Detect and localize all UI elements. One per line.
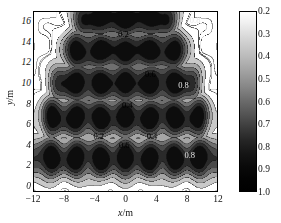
contour-inline-label: 0.6: [144, 69, 157, 78]
y-tick-label: 12: [22, 57, 32, 67]
contour-inline-label: 0.6: [118, 140, 131, 149]
x-tick-label: −8: [59, 194, 69, 204]
contour-inline-label: 0.2: [117, 29, 130, 38]
x-axis-tick-labels: −12−8−404812: [0, 194, 281, 208]
x-tick-label: 4: [154, 194, 159, 204]
y-tick-label: 14: [22, 37, 32, 47]
y-tick-label: 6: [26, 119, 31, 129]
colorbar-tick-label: 0.3: [258, 29, 270, 39]
x-tick-label: 12: [213, 194, 223, 204]
colorbar-tick-label: 0.7: [258, 119, 270, 129]
colorbar-tick-labels: 0.20.30.40.50.60.70.80.91.0: [258, 0, 281, 223]
contour-inline-label: 0.8: [189, 16, 202, 25]
colorbar-tick-label: 0.9: [258, 164, 270, 174]
contour-inline-label: 0.4: [121, 100, 134, 109]
contour-inline-label: 0.8: [183, 151, 196, 160]
colorbar-tick-label: 1.0: [258, 187, 270, 197]
figure-root: 0.80.20.60.80.40.20.40.60.8 161412108642…: [0, 0, 281, 223]
colorbar-gradient: [240, 12, 256, 191]
contour-inline-label: 0.2: [92, 132, 105, 141]
y-axis-title-var: y: [4, 101, 15, 105]
contour-plot-frame: 0.80.20.60.80.40.20.40.60.8: [33, 11, 218, 192]
y-tick-label: 0: [26, 181, 31, 191]
x-tick-label: 0: [123, 194, 128, 204]
x-tick-label: −12: [26, 194, 41, 204]
y-tick-label: 8: [26, 99, 31, 109]
y-tick-label: 2: [26, 160, 31, 170]
colorbar-tick-label: 0.5: [258, 74, 270, 84]
y-tick-label: 4: [26, 140, 31, 150]
y-tick-label: 10: [22, 78, 32, 88]
x-axis-title: x/m: [33, 207, 218, 218]
contour-inline-label: 0.8: [177, 81, 190, 90]
y-tick-label: 16: [22, 16, 32, 26]
x-tick-label: −4: [90, 194, 100, 204]
colorbar-tick-label: 0.6: [258, 97, 270, 107]
y-axis-title-unit: /m: [4, 90, 15, 101]
y-axis-tick-labels: 1614121086420: [12, 0, 31, 223]
y-axis-title: y/m: [4, 75, 15, 121]
colorbar-tick-label: 0.2: [258, 6, 270, 16]
colorbar-tick-label: 0.8: [258, 142, 270, 152]
contour-inline-label: 0.4: [146, 132, 159, 141]
x-axis-title-unit: /m: [122, 207, 133, 218]
x-tick-label: 8: [185, 194, 190, 204]
colorbar: [239, 11, 257, 192]
colorbar-tick-label: 0.4: [258, 51, 270, 61]
